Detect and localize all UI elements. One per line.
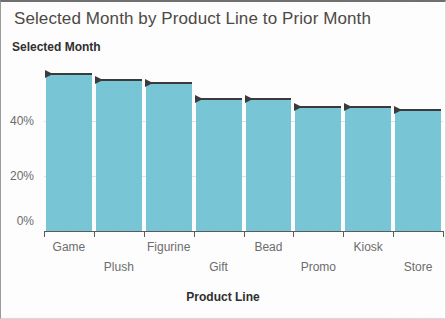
x-tick-label-game: Game [53, 240, 86, 254]
bar-promo[interactable] [293, 62, 343, 231]
x-tick [443, 231, 444, 237]
bar-rect[interactable] [196, 99, 242, 231]
reference-arrow-marker-promo [295, 106, 341, 108]
x-tick [393, 231, 394, 237]
bar-game[interactable] [44, 62, 94, 231]
bar-rect[interactable] [96, 80, 142, 231]
bar-rect[interactable] [246, 99, 292, 231]
x-tick [144, 231, 145, 237]
reference-arrow-marker-kiosk [345, 106, 391, 108]
x-tick-label-promo: Promo [301, 260, 336, 274]
reference-arrow-marker-game [46, 73, 92, 75]
bar-rect[interactable] [395, 110, 441, 231]
x-tick [343, 231, 344, 237]
reference-arrow-marker-figurine [146, 82, 192, 84]
reference-arrow-marker-gift [196, 98, 242, 100]
x-tick [94, 231, 95, 237]
x-tick [194, 231, 195, 237]
bar-rect[interactable] [46, 74, 92, 231]
bar-kiosk[interactable] [343, 62, 393, 231]
bar-bead[interactable] [244, 62, 294, 231]
page-title: Selected Month by Product Line to Prior … [14, 9, 371, 29]
y-tick-label-20: 20% [0, 169, 34, 183]
x-tick-label-bead: Bead [254, 240, 282, 254]
y-tick-label-0: 0% [0, 214, 34, 228]
reference-arrow-marker-bead [246, 98, 292, 100]
y-tick-label-40: 40% [0, 114, 34, 128]
chart-container: Selected Month by Product Line to Prior … [0, 0, 446, 319]
bar-rect[interactable] [295, 107, 341, 231]
bar-store[interactable] [393, 62, 443, 231]
bar-rect[interactable] [345, 107, 391, 231]
reference-arrow-marker-plush [96, 79, 142, 81]
bar-gift[interactable] [194, 62, 244, 231]
x-tick-label-gift: Gift [209, 260, 228, 274]
x-axis-title: Product Line [1, 290, 445, 304]
bar-figurine[interactable] [144, 62, 194, 231]
bar-plush[interactable] [94, 62, 144, 231]
bar-rect[interactable] [146, 83, 192, 232]
x-tick-label-plush: Plush [104, 260, 134, 274]
y-axis-title: Selected Month [12, 40, 101, 54]
x-tick-label-store: Store [404, 260, 433, 274]
x-tick-label-figurine: Figurine [147, 240, 190, 254]
x-tick [44, 231, 45, 237]
reference-arrow-marker-store [395, 109, 441, 111]
x-tick [293, 231, 294, 237]
x-tick-label-kiosk: Kiosk [354, 240, 383, 254]
x-tick [244, 231, 245, 237]
plot-area [44, 62, 443, 231]
